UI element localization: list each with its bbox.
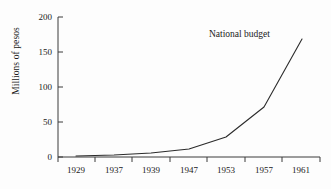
chart-plot bbox=[0, 0, 331, 189]
x-tick-label-1961: 1961 bbox=[292, 165, 310, 175]
series-annotation-national-budget: National budget bbox=[209, 29, 270, 39]
x-tick-label-1937: 1937 bbox=[105, 165, 123, 175]
x-tick-label-1957: 1957 bbox=[255, 165, 273, 175]
x-tick-label-1929: 1929 bbox=[67, 165, 85, 175]
chart-figure: 200 150 100 50 0 Millions of pesos bbox=[0, 0, 331, 189]
x-tick-label-1947: 1947 bbox=[180, 165, 198, 175]
x-tick-label-1939: 1939 bbox=[142, 165, 160, 175]
data-line-national-budget bbox=[76, 39, 302, 156]
x-tick-label-1953: 1953 bbox=[217, 165, 235, 175]
x-axis-ticks bbox=[58, 157, 320, 162]
y-axis-ticks bbox=[58, 17, 63, 157]
